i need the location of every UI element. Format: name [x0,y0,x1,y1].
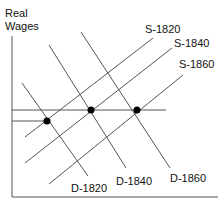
label-s-1820: S-1820 [145,23,180,35]
label-d-1840: D-1840 [116,175,152,187]
y-axis-label-line1: Real [5,7,28,19]
y-axis-label-line2: Wages [5,20,39,32]
label-s-1860: S-1860 [179,58,214,70]
equilibrium-point-1840 [88,107,95,114]
supply-curve-1840 [25,48,172,163]
label-d-1860: D-1860 [170,172,206,184]
equilibrium-point-1860 [134,107,141,114]
label-s-1840: S-1840 [174,37,209,49]
demand-curve-1820 [22,83,88,176]
demand-curve-1840 [49,45,126,168]
label-d-1820: D-1820 [71,182,107,194]
equilibrium-point-1820 [44,118,51,125]
